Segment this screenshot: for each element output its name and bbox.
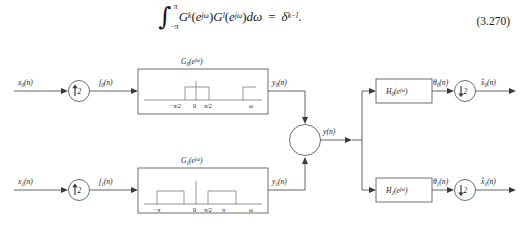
analysis-0-theta-wire [432, 88, 454, 94]
eq-differential: dω [247, 10, 263, 23]
equation-expression: ∫ π −π Gk(ejω)Gl(ejω)dω = δk−l. [0, 6, 460, 26]
branch-1-tick-3: π [222, 206, 226, 213]
branch-0-input-wire [14, 88, 68, 94]
branch-1-f-label: f1(n) [99, 177, 113, 187]
eq-G-second: G [213, 10, 222, 23]
branch-1-tick-2: π/2 [204, 206, 212, 213]
branch-1-axis-label: ω [249, 206, 254, 213]
analysis-1-output-label: x̂1(n) [480, 177, 496, 187]
branch-0-tick-1: 0 [193, 102, 196, 109]
eq-period: . [298, 10, 301, 23]
analysis-1-downsampler[interactable]: 2 [455, 180, 476, 201]
branch-1-tick-0: −π [153, 206, 161, 213]
block-diagram: x0(n) 2 f0(n) G0(ejω) −π/2 [0, 38, 524, 236]
branch-0-input-label: x0(n) [17, 78, 33, 88]
branch-1-response-plot: −π 0 π/2 π ω [144, 181, 262, 213]
branch-0-tick-2: π/2 [204, 102, 212, 109]
branch-1-upsampler-factor: 2 [78, 186, 82, 195]
branch-0-y-wire [268, 91, 308, 124]
analysis-0-downsampler[interactable]: 2 [455, 81, 476, 102]
analysis-0-downsampler-factor: 2 [464, 87, 468, 96]
branch-1-y-label: y1(n) [271, 177, 287, 187]
equation-number: (3.270) [476, 15, 510, 27]
branch-1-input-wire [14, 187, 68, 193]
figure-page: ∫ π −π Gk(ejω)Gl(ejω)dω = δk−l. (3.270) … [0, 0, 524, 236]
analysis-0-output-wire [476, 88, 517, 94]
analysis-0-output-label: x̂0(n) [480, 78, 496, 88]
branch-1-f-wire [90, 187, 139, 193]
branch-0-filter-label: G0(ejω) [181, 57, 203, 67]
integral-lower-limit: −π [171, 23, 179, 31]
analysis-1-filter-label: H1(ejω) [385, 186, 408, 196]
equation-row: ∫ π −π Gk(ejω)Gl(ejω)dω = δk−l. (3.270) [0, 6, 524, 40]
branch-0-upsampler[interactable]: 2 [69, 81, 90, 102]
analysis-split-bus [352, 88, 376, 193]
branch-0-f-label: f0(n) [99, 78, 113, 88]
branch-0-tick-0: −π/2 [169, 102, 181, 109]
eq-exp-1: jω [202, 12, 209, 20]
eq-equals: = [268, 10, 275, 23]
branch-0-f-wire [90, 88, 139, 94]
branch-1-input-label: x1(n) [17, 177, 33, 187]
summer-output-label: y(n) [322, 127, 336, 136]
analysis-0-filter-label: H0(ejω) [385, 87, 408, 97]
summer-output-wire [321, 137, 353, 143]
analysis-1-theta-wire [432, 187, 454, 193]
branch-0-y-label: y0(n) [271, 78, 287, 88]
analysis-1-theta-label: θ1(n) [433, 177, 449, 187]
branch-1-tick-1: 0 [193, 206, 196, 213]
branch-0-response-plot: −π/2 0 π/2 ω [144, 81, 262, 109]
summing-junction[interactable] [290, 125, 321, 156]
analysis-1-downsampler-factor: 2 [464, 186, 468, 195]
analysis-1-output-wire [476, 187, 517, 193]
analysis-0-theta-label: θ0(n) [433, 78, 449, 88]
branch-1-upsampler[interactable]: 2 [69, 180, 90, 201]
branch-0-upsampler-factor: 2 [78, 87, 82, 96]
eq-delta-sub: k−l [288, 12, 298, 20]
branch-0-axis-label: ω [249, 102, 254, 109]
integral-upper-limit: π [174, 3, 178, 11]
eq-exp-2: jω [235, 12, 242, 20]
branch-1-filter-label: G1(ejω) [181, 156, 203, 166]
eq-G-first: G [179, 10, 188, 23]
